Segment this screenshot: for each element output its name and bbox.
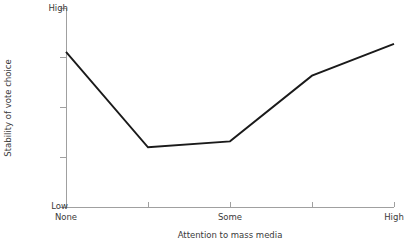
x-axis-tick-label-high: High bbox=[384, 213, 404, 222]
x-axis-tick-label-some: Some bbox=[218, 213, 242, 222]
y-axis-tick-label-high: High bbox=[48, 4, 68, 13]
x-axis-title: Attention to mass media bbox=[178, 231, 283, 240]
x-axis-tick-label-none: None bbox=[55, 213, 77, 222]
y-axis-tick-label-low: Low bbox=[51, 202, 68, 211]
chart-figure: High Low None Some High Attention to mas… bbox=[0, 0, 415, 251]
y-axis-title: Stability of vote choice bbox=[4, 59, 13, 156]
data-series-line bbox=[66, 44, 394, 147]
